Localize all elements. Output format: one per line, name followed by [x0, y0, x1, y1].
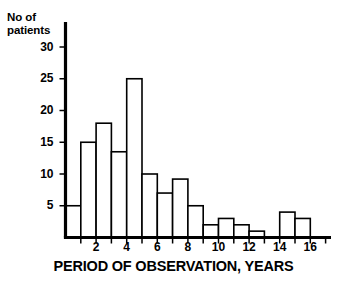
histogram-bar — [173, 179, 188, 237]
histogram-bar — [66, 206, 81, 238]
plot-area — [0, 0, 347, 289]
bars-group — [66, 79, 311, 238]
histogram-bar — [111, 152, 126, 238]
histogram-bar — [219, 218, 234, 237]
histogram-bar — [127, 79, 142, 238]
histogram-bar — [96, 123, 111, 237]
histogram-bar — [234, 225, 249, 238]
histogram-bar — [188, 206, 203, 238]
histogram-bar — [203, 225, 218, 238]
histogram-bar — [81, 142, 96, 237]
histogram-chart: No of patients PERIOD OF OBSERVATION, YE… — [0, 0, 347, 289]
histogram-bar — [295, 218, 310, 237]
histogram-bar — [142, 174, 157, 238]
histogram-bar — [280, 212, 295, 237]
histogram-bar — [157, 193, 172, 237]
